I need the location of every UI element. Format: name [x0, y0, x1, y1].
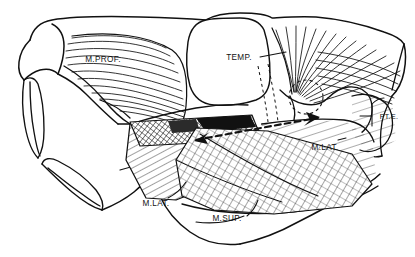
- skull-illustration: M.PROF. TEMP. PT.E. M.LAT. M.LAT. M.SUP.: [0, 0, 415, 257]
- label-pterygoideus-externus: PT.E.: [380, 113, 399, 121]
- anatomical-figure: M.PROF. TEMP. PT.E. M.LAT. M.LAT. M.SUP.: [0, 0, 415, 257]
- lower-incisor: [42, 159, 103, 210]
- label-masseter-superficialis: M.SUP.: [212, 214, 241, 223]
- upper-incisor: [23, 78, 44, 158]
- label-masseter-lateralis-posterior: M.LAT.: [312, 143, 339, 152]
- condyle-marker-dashed-circle: [289, 80, 323, 114]
- label-masseter-lateralis-anterior: M.LAT.: [143, 199, 170, 208]
- label-temporalis: TEMP.: [226, 53, 252, 62]
- temporalis-fibers: [272, 26, 400, 104]
- label-masseter-profundus: M.PROF.: [85, 55, 121, 64]
